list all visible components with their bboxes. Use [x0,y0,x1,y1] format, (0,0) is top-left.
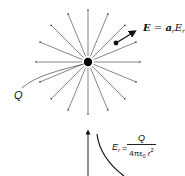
point-charge-dot [84,58,92,66]
charge-label: Q [14,89,23,101]
field-line [92,66,125,99]
formula-numerator: Q [127,133,156,145]
field-line [51,25,84,58]
formula-fraction: Q 4πε0 r2 [129,133,154,162]
field-magnitude-formula: Er = Q 4πε0 r2 [112,133,154,162]
field-line [90,14,108,57]
field-line [51,66,84,99]
field-line [90,68,108,111]
field-line [94,64,137,82]
field-component-subscript: r [182,27,185,34]
denominator-exponent: 2 [151,147,154,153]
formula-lhs-subscript: r [118,147,120,153]
field-vector-symbol: E [143,22,151,33]
field-line [92,25,125,58]
formula-lhs: Er [112,142,120,153]
field-line [68,68,86,111]
field-vector-label: E = arEr [143,22,185,34]
field-line [40,42,83,60]
formula-denominator: 4πε0 r2 [129,145,154,162]
field-component-symbol: E [175,22,182,33]
field-vector-arrow [116,32,134,43]
denominator-main: 4πε [129,149,143,158]
equals-sign: = [151,22,166,33]
field-line [40,64,83,82]
field-vector-origin-dot [114,41,119,46]
field-line [68,14,86,57]
